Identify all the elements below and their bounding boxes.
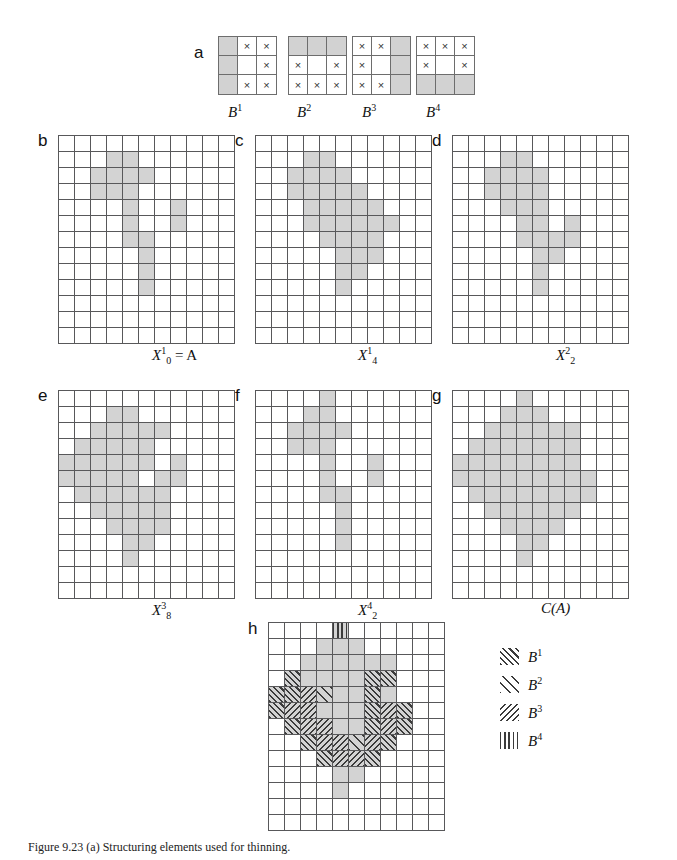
grid-cell <box>123 391 139 407</box>
grid-cell <box>256 168 272 184</box>
grid-cell <box>453 168 469 184</box>
legend-swatch-h1 <box>500 648 519 665</box>
grid-cell <box>453 184 469 200</box>
grid-cell <box>304 503 320 519</box>
grid-cell <box>272 583 288 599</box>
grid-cell <box>469 184 485 200</box>
grid-cell <box>107 264 123 280</box>
grid-cell <box>123 328 139 344</box>
grid-cell <box>368 551 384 567</box>
grid-cell <box>187 439 203 455</box>
grid-cell <box>171 296 187 312</box>
grid-cell <box>352 248 368 264</box>
grid-cell <box>413 703 429 719</box>
grid-cell <box>613 152 629 168</box>
se-cell: × <box>238 37 257 56</box>
grid-cell <box>304 423 320 439</box>
structuring-element-b4: ××××× <box>416 36 475 95</box>
grid-cell <box>171 136 187 152</box>
grid-cell <box>288 423 304 439</box>
pixel-grid <box>255 390 432 599</box>
grid-cell <box>301 751 317 767</box>
grid-cell <box>187 264 203 280</box>
grid-cell <box>384 312 400 328</box>
grid-cell <box>416 407 432 423</box>
grid-cell <box>187 487 203 503</box>
grid-cell <box>349 783 365 799</box>
grid-cell <box>613 567 629 583</box>
grid-cell <box>501 168 517 184</box>
grid-cell <box>533 312 549 328</box>
grid-cell <box>75 471 91 487</box>
grid-cell <box>413 687 429 703</box>
grid-cell <box>272 519 288 535</box>
se-cell: × <box>289 75 308 94</box>
panel-letter-f: f <box>235 387 240 404</box>
grid-cell <box>581 216 597 232</box>
se-cell: × <box>372 75 391 94</box>
grid-cell <box>416 487 432 503</box>
grid-cell <box>288 407 304 423</box>
grid-cell <box>549 519 565 535</box>
grid-cell <box>613 184 629 200</box>
grid-cell <box>469 216 485 232</box>
grid-cell <box>581 264 597 280</box>
grid-cell <box>91 423 107 439</box>
grid-cell <box>533 184 549 200</box>
grid-cell <box>139 551 155 567</box>
grid-cell <box>333 799 349 815</box>
grid-cell <box>581 296 597 312</box>
se-cell: × <box>327 75 346 94</box>
grid-cell <box>365 751 381 767</box>
panel-caption-g: C(A) <box>541 600 570 617</box>
grid-cell <box>429 767 445 783</box>
grid-cell <box>384 583 400 599</box>
panel-c <box>255 135 432 344</box>
grid-cell <box>304 567 320 583</box>
grid-cell <box>352 455 368 471</box>
grid-cell <box>613 328 629 344</box>
grid-cell <box>336 535 352 551</box>
grid-cell <box>416 583 432 599</box>
grid-cell <box>272 184 288 200</box>
grid-cell <box>469 312 485 328</box>
grid-cell <box>336 503 352 519</box>
grid-cell <box>400 280 416 296</box>
grid-cell <box>469 296 485 312</box>
grid-cell <box>75 423 91 439</box>
grid-cell <box>485 216 501 232</box>
grid-cell <box>256 503 272 519</box>
grid-cell <box>288 439 304 455</box>
grid-cell <box>565 136 581 152</box>
grid-cell <box>320 503 336 519</box>
grid-cell <box>336 312 352 328</box>
grid-cell <box>107 519 123 535</box>
grid-cell <box>333 751 349 767</box>
legend-swatch-h2 <box>500 676 519 693</box>
grid-cell <box>365 735 381 751</box>
grid-cell <box>400 232 416 248</box>
grid-cell <box>549 567 565 583</box>
grid-cell <box>485 535 501 551</box>
grid-cell <box>123 407 139 423</box>
grid-cell <box>139 519 155 535</box>
grid-cell <box>219 455 235 471</box>
grid-cell <box>565 567 581 583</box>
grid-cell <box>288 455 304 471</box>
grid-cell <box>416 503 432 519</box>
se-cell <box>327 37 346 56</box>
grid-cell <box>517 216 533 232</box>
grid-cell <box>469 519 485 535</box>
grid-cell <box>155 503 171 519</box>
grid-cell <box>336 407 352 423</box>
grid-cell <box>400 312 416 328</box>
grid-cell <box>469 439 485 455</box>
grid-cell <box>613 391 629 407</box>
grid-cell <box>123 583 139 599</box>
se-cell <box>289 37 308 56</box>
grid-cell <box>155 455 171 471</box>
grid-cell <box>304 455 320 471</box>
grid-cell <box>75 439 91 455</box>
grid-cell <box>549 168 565 184</box>
grid-cell <box>288 583 304 599</box>
